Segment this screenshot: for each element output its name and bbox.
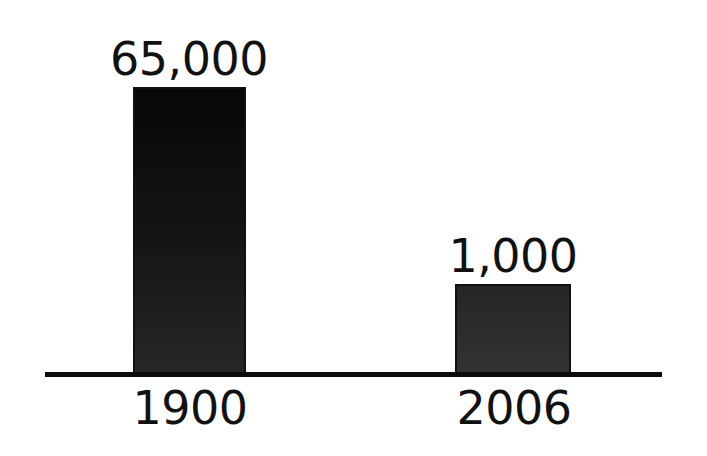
x-axis-tick-label-1900: 1900: [70, 385, 310, 431]
x-axis-tick-label-2006: 2006: [394, 385, 634, 431]
bar-1900: [133, 87, 246, 375]
bar-value-label-2006: 1,000: [393, 233, 633, 279]
bar-chart: 65,000 1,000 1900 2006: [0, 0, 707, 456]
bar-value-label-1900: 65,000: [69, 36, 309, 82]
x-axis-line: [45, 372, 662, 377]
bar-2006: [455, 284, 571, 375]
